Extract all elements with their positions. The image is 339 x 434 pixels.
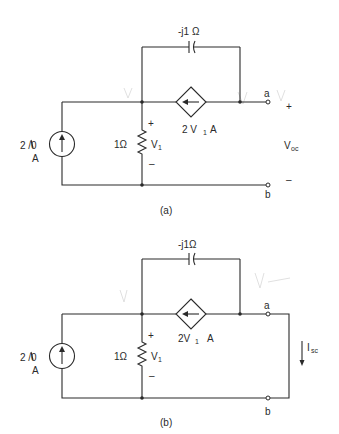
terminal-b	[266, 183, 270, 187]
dependent-source-icon	[176, 299, 206, 329]
svg-text:A: A	[210, 124, 217, 135]
svg-text:2 /0: 2 /0	[20, 352, 37, 363]
caption-b: (b)	[160, 417, 172, 428]
dependent-source-icon	[176, 87, 206, 117]
svg-text:V: V	[284, 140, 291, 151]
svg-text:V: V	[151, 351, 158, 362]
capacitor-label: -j1 Ω	[178, 26, 200, 37]
current-source-icon	[50, 132, 75, 157]
svg-text:I: I	[307, 342, 310, 353]
terminal-b	[266, 396, 270, 400]
resistor-icon	[138, 314, 146, 398]
svg-text:A: A	[207, 333, 214, 344]
svg-text:–: –	[149, 370, 155, 381]
svg-text:a: a	[264, 300, 270, 311]
svg-text:2 V: 2 V	[182, 124, 197, 135]
svg-text:1Ω: 1Ω	[114, 351, 128, 362]
circuit-a: -j1 Ω 2 /0 A 1Ω + V 1 – 2 V 1 A a b +	[20, 26, 299, 216]
svg-text:1: 1	[195, 338, 199, 345]
capacitor-label: -j1Ω	[178, 239, 197, 250]
svg-text:+: +	[148, 330, 154, 341]
svg-text:–: –	[286, 174, 292, 185]
svg-text:1: 1	[158, 356, 162, 363]
svg-text:2V: 2V	[178, 333, 191, 344]
svg-text:2 /0: 2 /0	[20, 140, 37, 151]
svg-text:A: A	[32, 365, 39, 376]
svg-text:1: 1	[158, 144, 162, 151]
svg-text:b: b	[265, 189, 271, 200]
resistor-icon	[138, 102, 146, 185]
isc-arrow-icon	[300, 341, 305, 366]
circuit-diagram: -j1 Ω 2 /0 A 1Ω + V 1 – 2 V 1 A a b +	[0, 0, 339, 434]
caption-a: (a)	[160, 205, 172, 216]
svg-text:1Ω: 1Ω	[114, 139, 128, 150]
svg-text:1: 1	[203, 129, 207, 136]
svg-text:–: –	[149, 158, 155, 169]
svg-text:+: +	[148, 118, 154, 129]
svg-text:sc: sc	[311, 347, 319, 354]
svg-text:b: b	[265, 406, 271, 417]
svg-text:+: +	[286, 101, 292, 112]
svg-text:A: A	[32, 153, 39, 164]
circuit-b: -j1Ω 2 /0 A 1Ω + V 1 – 2V 1	[20, 239, 319, 428]
current-source-icon	[50, 344, 75, 369]
svg-text:V: V	[151, 139, 158, 150]
terminal-a	[266, 312, 270, 316]
svg-text:a: a	[264, 88, 270, 99]
terminal-a	[266, 100, 270, 104]
svg-text:oc: oc	[291, 145, 299, 152]
